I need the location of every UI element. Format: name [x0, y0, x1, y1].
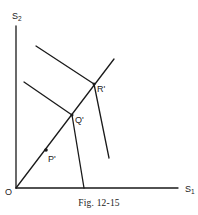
point-q — [71, 114, 74, 117]
r-isoline-upper — [36, 46, 94, 84]
point-p — [44, 148, 48, 152]
x-axis-label: S1 — [185, 184, 195, 195]
point-q-label: Q' — [75, 115, 84, 125]
point-r — [93, 83, 96, 86]
point-r-label: R' — [97, 84, 105, 94]
ray-from-origin — [16, 59, 114, 188]
figure-caption: Fig. 12-15 — [78, 198, 120, 208]
diagram: S2 S1 O P' Q' R' Fig. 12-15 — [0, 0, 198, 215]
q-isoline-upper — [24, 82, 72, 115]
q-isoline-lower — [72, 115, 84, 188]
point-p-label: P' — [48, 154, 56, 164]
r-isoline-lower — [94, 84, 109, 158]
origin-label: O — [5, 187, 12, 197]
y-axis-label: S2 — [12, 11, 22, 22]
